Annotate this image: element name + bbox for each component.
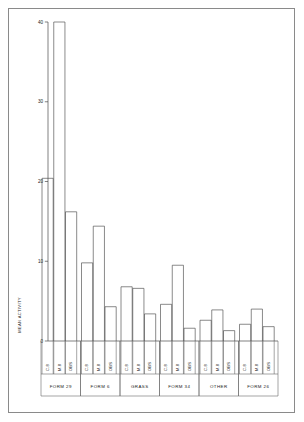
bar — [200, 320, 211, 341]
group-label: FORM 6 — [91, 384, 110, 389]
group-label: OTHER — [210, 384, 228, 389]
bar — [145, 314, 156, 341]
bar — [172, 265, 183, 341]
group-label: FORM 26 — [247, 384, 269, 389]
bar-label: OBS — [187, 362, 192, 371]
bar-label: M.8 — [215, 363, 220, 371]
bar — [54, 22, 65, 341]
bar — [82, 263, 93, 341]
bar-label: M.8 — [175, 363, 180, 371]
bar-label: C.8 — [164, 364, 169, 371]
bar — [240, 324, 251, 341]
bar — [93, 226, 104, 341]
bar — [121, 287, 132, 341]
bar-label: C.8 — [84, 364, 89, 371]
bar — [212, 310, 223, 341]
bar-label: M.8 — [254, 363, 259, 371]
plot-area: 010203040C.8M.8OBSFORM 29C.8M.8OBSFORM 6… — [0, 0, 304, 422]
bar-chart-svg: 010203040C.8M.8OBSFORM 29C.8M.8OBSFORM 6… — [0, 0, 304, 422]
bar — [66, 212, 77, 341]
bar — [161, 304, 172, 341]
y-axis-tick-label: 40 — [38, 20, 44, 25]
bar-label: OBS — [148, 362, 153, 371]
bar-label: C.8 — [203, 364, 208, 371]
bar-label: M.8 — [57, 363, 62, 371]
y-axis-tick-label: 10 — [38, 259, 44, 264]
bar — [133, 288, 144, 341]
group-label: FORM 29 — [50, 384, 72, 389]
bar-label: OBS — [108, 362, 113, 371]
group-label: GRASS — [131, 384, 149, 389]
bar-label: C.8 — [243, 364, 248, 371]
bar-label: OBS — [68, 362, 73, 371]
y-axis-tick-label: 30 — [38, 99, 44, 104]
bar — [105, 307, 116, 341]
y-axis-tick-label: 20 — [38, 179, 44, 184]
bar — [184, 328, 195, 341]
bar — [224, 331, 235, 341]
bar — [42, 178, 53, 341]
group-label: FORM 34 — [168, 384, 190, 389]
bar-label: M.8 — [96, 363, 101, 371]
bar-label: C.8 — [124, 364, 129, 371]
chart-page: MEAN ACTIVITY 010203040C.8M.8OBSFORM 29C… — [0, 0, 304, 422]
bar — [251, 309, 262, 341]
bar-label: M.8 — [136, 363, 141, 371]
bar-label: OBS — [266, 362, 271, 371]
bar-label: OBS — [227, 362, 232, 371]
bar-label: C.8 — [45, 364, 50, 371]
bar — [263, 327, 274, 341]
